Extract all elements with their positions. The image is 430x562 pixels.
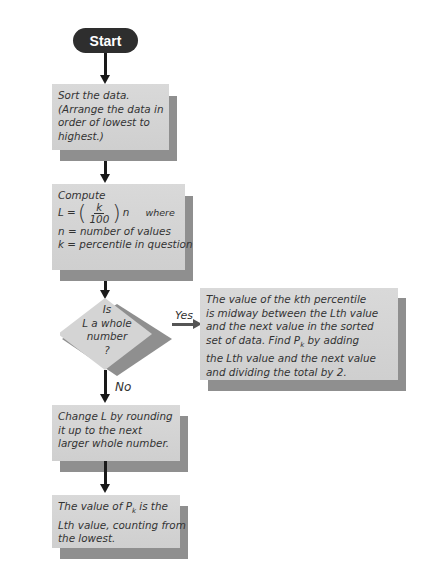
yes-arrow-line xyxy=(172,323,194,326)
result-line-2: Lth value, counting from xyxy=(58,519,174,533)
sort-step-box: Sort the data. (Arrange the data in orde… xyxy=(52,84,169,150)
yes-line-4: set of data. Find Pk by adding xyxy=(206,334,392,353)
arrowhead-icon xyxy=(100,174,110,183)
percentile-location-formula: L = ( k 100 ) n where xyxy=(58,202,179,225)
def-n: n = number of values xyxy=(58,225,179,239)
fraction: k 100 xyxy=(87,202,111,225)
sort-line-2: (Arrange the data in xyxy=(58,103,163,117)
formula-where: where xyxy=(145,206,174,220)
yes-line-1: The value of the kth percentile xyxy=(206,293,392,307)
formula-lhs: L = xyxy=(58,206,76,220)
round-line-3: larger whole number. xyxy=(58,437,174,451)
start-node: Start xyxy=(73,28,138,53)
decision-text: Is L a whole number ? xyxy=(62,303,152,357)
result-line-1: The value of Pk is the xyxy=(58,500,174,519)
arrowhead-icon xyxy=(100,75,110,84)
yes-label: Yes xyxy=(175,309,193,322)
no-label: No xyxy=(115,380,131,394)
sort-line-3: order of lowest to xyxy=(58,116,163,130)
yes-line-4-pre: set of data. Find P xyxy=(206,334,300,346)
arrowhead-icon xyxy=(100,394,110,403)
formula-rhs: n xyxy=(123,206,130,220)
right-paren: ) xyxy=(112,202,121,224)
arrow-decision-to-round xyxy=(104,370,107,396)
result-line-1-post: is the xyxy=(136,500,168,512)
yes-line-3: and the next value in the sorted xyxy=(206,320,392,334)
decision-line-3: number xyxy=(62,330,152,344)
compute-step-box: Compute L = ( k 100 ) n where n = number… xyxy=(52,184,185,270)
arrow-start-to-sort xyxy=(104,53,107,76)
start-label: Start xyxy=(90,33,122,49)
yes-line-5: the Lth value and the next value xyxy=(206,352,392,366)
round-line-1: Change L by rounding xyxy=(58,410,174,424)
yes-line-4-rest: by adding xyxy=(304,334,359,346)
left-paren: ( xyxy=(78,202,87,224)
round-step-box: Change L by rounding it up to the next l… xyxy=(52,405,180,461)
decision-line-2: L a whole xyxy=(62,317,152,331)
sort-line-4: highest.) xyxy=(58,130,163,144)
yes-line-2: is midway between the Lth value xyxy=(206,307,392,321)
sort-line-1: Sort the data. xyxy=(58,89,163,103)
fraction-numerator: k xyxy=(94,202,104,214)
result-line-3: the lowest. xyxy=(58,532,174,546)
decision-line-1: Is xyxy=(62,303,152,317)
decision-line-4: ? xyxy=(62,344,152,358)
fraction-denominator: 100 xyxy=(87,214,111,225)
result-line-1-pre: The value of P xyxy=(58,500,132,512)
arrow-round-to-result xyxy=(104,461,107,486)
yes-result-box: The value of the kth percentile is midwa… xyxy=(200,288,398,380)
result-step-box: The value of Pk is the Lth value, counti… xyxy=(52,495,180,548)
arrowhead-icon xyxy=(100,484,110,493)
def-k: k = percentile in question xyxy=(58,238,179,252)
yes-line-6: and dividing the total by 2. xyxy=(206,366,392,380)
round-line-2: it up to the next xyxy=(58,424,174,438)
